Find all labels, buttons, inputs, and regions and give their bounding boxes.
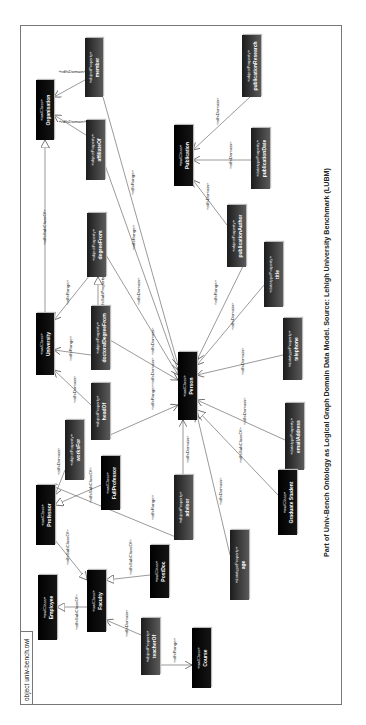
- node-organisation[interactable]: «owlClass» Organisation: [36, 80, 54, 140]
- node-name: Employee: [48, 575, 54, 640]
- node-name: publicationDate: [261, 128, 267, 189]
- edge-label: «rdfsDomain»: [205, 183, 210, 210]
- node-worksFor[interactable]: «objectProperty» worksFor: [65, 420, 84, 480]
- node-stereotype: «datatypeProperty»: [234, 530, 240, 600]
- node-stereotype: «owlClass»: [182, 352, 188, 420]
- edge-label: «rdfsDomain»: [150, 358, 155, 385]
- node-doctoralDegreeFrom[interactable]: «objectProperty» doctoralDegreeFrom: [91, 306, 110, 370]
- node-advisor[interactable]: «objectProperty» advisor: [174, 475, 193, 540]
- edge-label: «rdfsDomain»: [59, 119, 86, 124]
- node-publication[interactable]: «owlClass» Publication: [174, 125, 193, 186]
- node-employee[interactable]: «owlClass» Employee: [38, 575, 57, 640]
- node-member[interactable]: «objectProperty» member: [85, 38, 103, 97]
- node-name: Graduate Student: [288, 470, 294, 535]
- node-publicationDate[interactable]: «datatypeProperty» publicationDate: [251, 128, 270, 189]
- node-age[interactable]: «datatypeProperty» age: [230, 530, 249, 600]
- node-stereotype: «owlClass»: [196, 628, 202, 688]
- node-publicationAuthor[interactable]: «objectProperty» publicationAuthor: [227, 205, 246, 267]
- edge-label: «rdfsDomain»: [124, 610, 129, 637]
- node-name: Publication: [184, 125, 190, 186]
- node-course[interactable]: «owlClass» Course: [192, 628, 211, 688]
- node-emailAddress[interactable]: «datatypeProperty» emailAddress: [285, 403, 304, 470]
- edge-label: «rdfsSubClassOf»: [42, 209, 47, 245]
- node-name: Course: [202, 628, 208, 688]
- node-stereotype: «owlClass»: [178, 125, 184, 186]
- node-stereotype: «owlClass»: [40, 485, 46, 545]
- node-stereotype: «objectProperty»: [90, 120, 96, 180]
- node-stereotype: «objectProperty»: [231, 205, 237, 267]
- node-stereotype: «owlClass»: [282, 470, 288, 535]
- edge-label: «rdfsSubClassOf»: [128, 539, 133, 575]
- node-degreeFrom[interactable]: «objectProperty» degreeFrom: [87, 213, 106, 277]
- node-name: teacherOf: [151, 618, 157, 675]
- node-headOf[interactable]: «objectProperty» headOf: [91, 383, 110, 440]
- node-name: title: [274, 242, 280, 307]
- edge-label: «rdfsRange»: [130, 170, 135, 195]
- node-professor[interactable]: «owlClass» Professor: [36, 485, 55, 545]
- node-stereotype: «owlClass»: [91, 570, 97, 632]
- node-postDoc[interactable]: «owlClass» PostDoc: [150, 545, 169, 598]
- edge-label: «rdfsDomain»: [218, 478, 223, 505]
- edge-label: «rdfsDomain»: [150, 328, 155, 355]
- node-name: PostDoc: [160, 545, 166, 598]
- node-university[interactable]: «owlClass» University: [36, 313, 54, 375]
- node-stereotype: «objectProperty»: [145, 618, 151, 675]
- node-name: age: [240, 530, 246, 600]
- node-name: advisor: [184, 475, 190, 540]
- edge-label: «rdfsRange»: [172, 638, 177, 663]
- node-name: FullProfessor: [111, 456, 117, 510]
- node-name: Professor: [46, 485, 52, 545]
- edge-label: «rdfsSubClassOf»: [65, 529, 70, 565]
- node-stereotype: «datatypeProperty»: [268, 242, 274, 307]
- edge-label: «rdfsDomain»: [72, 376, 77, 403]
- node-name: University: [45, 313, 51, 375]
- diagram-canvas: object univ-bench.owl: [0, 0, 366, 725]
- node-publicationResearch[interactable]: «objectProperty» publicationResearch: [242, 35, 261, 97]
- edge-label: «rdfsDomain»: [228, 142, 233, 169]
- node-stereotype: «objectProperty»: [95, 306, 101, 370]
- node-stereotype: «owlClass»: [154, 545, 160, 598]
- edge-label: «rdfsDomain»: [185, 436, 190, 463]
- edge-label: «rdfsDomain»: [240, 348, 245, 375]
- node-faculty[interactable]: «owlClass» Faculty: [87, 570, 106, 632]
- node-stereotype: «owlClass»: [42, 575, 48, 640]
- node-telephone[interactable]: «datatypeProperty» telephone: [283, 318, 302, 380]
- node-affiliateOf[interactable]: «objectProperty» affiliateOf: [86, 120, 105, 180]
- edge-label: «rdfsRange»: [150, 495, 155, 520]
- node-name: publicationResearch: [252, 35, 258, 97]
- node-name: Person: [188, 352, 194, 420]
- node-name: headOf: [101, 383, 107, 440]
- node-name: Faculty: [97, 570, 103, 632]
- edge-label: «rdfsSubClassOf»: [238, 427, 243, 463]
- node-stereotype: «objectProperty»: [91, 213, 97, 277]
- node-name: publicationAuthor: [237, 205, 243, 267]
- node-name: Organisation: [45, 80, 51, 140]
- node-name: emailAddress: [295, 403, 301, 470]
- edge-label: «rdfsDomain»: [215, 98, 220, 125]
- node-graduateStudent[interactable]: «owlClass» Graduate Student: [278, 470, 297, 535]
- node-stereotype: «objectProperty»: [95, 383, 101, 440]
- node-title[interactable]: «datatypeProperty» title: [264, 242, 283, 307]
- node-name: degreeFrom: [97, 213, 103, 277]
- edge-label: «rdfsRange»: [65, 280, 70, 305]
- node-teacherOf[interactable]: «objectProperty» teacherOf: [141, 618, 160, 675]
- edge-label: «rdfsRange»: [131, 225, 136, 250]
- node-stereotype: «datatypeProperty»: [255, 128, 261, 189]
- edge-label: «rdfsSubClassOf»: [74, 594, 79, 630]
- node-stereotype: «objectProperty»: [69, 420, 75, 480]
- node-person[interactable]: «owlClass» Person: [178, 352, 197, 420]
- node-stereotype: «objectProperty»: [246, 35, 252, 97]
- node-name: worksFor: [75, 420, 81, 480]
- edge-label: «rdfsDomain»: [242, 398, 247, 425]
- node-name: affiliateOf: [96, 120, 102, 180]
- node-fullProfessor[interactable]: «owlClass» FullProfessor: [101, 456, 120, 510]
- node-stereotype: «owlClass»: [39, 313, 45, 375]
- edge-label: «rdfsDomain»: [136, 278, 141, 305]
- edge-label: «rdfsRange»: [213, 280, 218, 305]
- node-stereotype: «datatypeProperty»: [289, 403, 295, 470]
- node-stereotype: «objectProperty»: [88, 38, 94, 97]
- edge-label: «rdfsDomain»: [59, 69, 86, 74]
- edge-label: «rdfsDomain»: [56, 448, 61, 475]
- node-name: member: [94, 38, 100, 97]
- edge-label: «rdfsRange»: [68, 336, 73, 361]
